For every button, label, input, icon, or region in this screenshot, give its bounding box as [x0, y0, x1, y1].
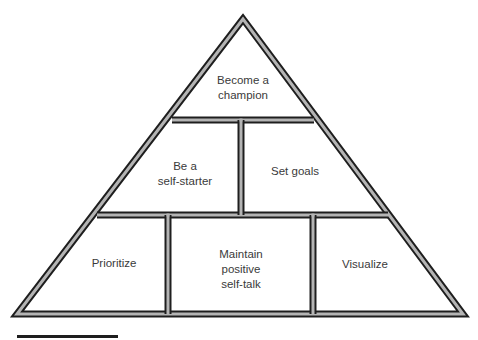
block-label-line: champion — [217, 88, 269, 103]
block-self-starter: Be a self-starter — [158, 159, 212, 189]
block-label-line: Become a — [217, 73, 269, 88]
block-visualize: Visualize — [342, 257, 388, 272]
block-label-line: positive — [219, 262, 262, 277]
block-label-line: Be a — [158, 159, 212, 174]
block-set-goals: Set goals — [271, 164, 319, 179]
block-positive-self-talk: Maintain positive self-talk — [219, 247, 262, 292]
block-label-line: Prioritize — [92, 256, 137, 271]
block-label-line: self-talk — [219, 277, 262, 292]
block-label-line: Visualize — [342, 257, 388, 272]
block-label-line: Maintain — [219, 247, 262, 262]
block-become-champion: Become a champion — [217, 73, 269, 103]
block-prioritize: Prioritize — [92, 256, 137, 271]
footnote-rule — [17, 335, 118, 338]
block-label-line: self-starter — [158, 174, 212, 189]
block-label-line: Set goals — [271, 164, 319, 179]
